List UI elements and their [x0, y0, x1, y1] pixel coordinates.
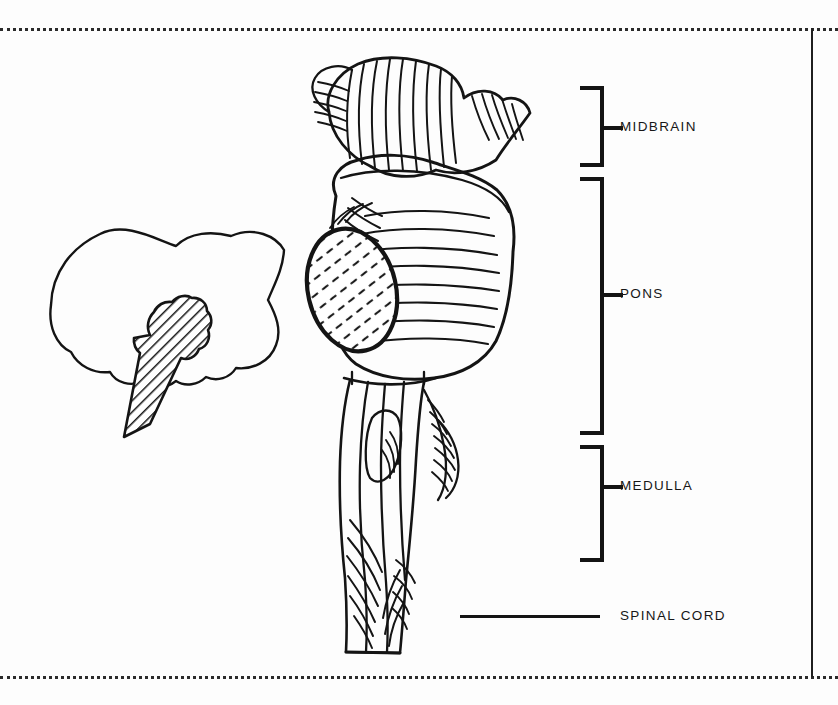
bracket-pons [580, 177, 604, 435]
leader-line-spinal-cord [460, 615, 600, 618]
brainstem-main-illustration [295, 58, 530, 653]
figure-page: MIDBRAIN PONS MEDULLA SPINAL CORD [0, 0, 838, 705]
figure-artwork [0, 0, 838, 705]
brainstem-highlight-hatch [124, 296, 211, 437]
label-pons: PONS [620, 287, 664, 301]
label-spinal-cord: SPINAL CORD [620, 609, 726, 623]
bracket-medulla [580, 445, 604, 562]
label-medulla: MEDULLA [620, 479, 693, 493]
label-midbrain: MIDBRAIN [620, 120, 697, 134]
